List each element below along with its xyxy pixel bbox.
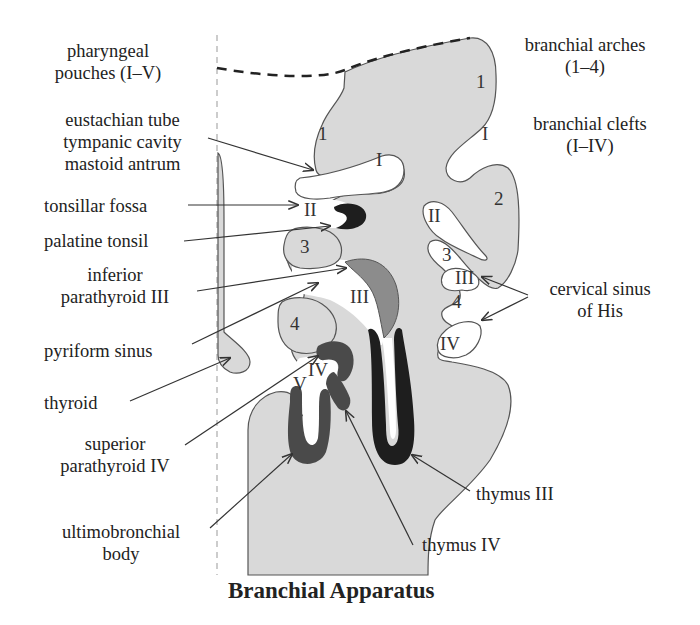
label-line: parathyroid III: [44, 286, 186, 308]
label-palatine-tonsil: palatine tonsil: [44, 230, 148, 252]
label-line: (1–4): [505, 56, 665, 78]
mark-arch-2: 2: [494, 188, 504, 209]
label-line: eustachian tube: [40, 109, 205, 131]
label-line: inferior: [44, 264, 186, 286]
arrow-eustachian: [208, 138, 313, 170]
label-branchial-clefts: branchial clefts (I–IV): [510, 113, 670, 157]
mark-arch-4-left: 4: [290, 313, 300, 334]
mark-arch-1-top: 1: [476, 71, 486, 92]
label-line: mastoid antrum: [40, 153, 205, 175]
mark-pouch-II: II: [304, 199, 317, 220]
label-line: pouches (I–V): [44, 62, 172, 84]
label-line: pharyngeal: [44, 40, 172, 62]
label-line: superior: [44, 433, 186, 455]
label-line: tympanic cavity: [40, 131, 205, 153]
label-pyriform-sinus: pyriform sinus: [44, 340, 152, 362]
label-line: parathyroid IV: [44, 455, 186, 477]
label-line: cervical sinus: [534, 278, 666, 300]
arch-3-left: [284, 227, 342, 268]
mark-cleft-IV: IV: [440, 333, 460, 354]
label-line: branchial clefts: [510, 113, 670, 135]
mark-cleft-II: II: [428, 205, 441, 226]
label-line: of His: [534, 300, 666, 322]
mark-arch-3-left: 3: [300, 236, 310, 257]
mark-arch-4-right: 4: [452, 291, 462, 312]
arrow-cervical-sinus-iv: [482, 297, 528, 320]
label-ultimobronchial: ultimobronchial body: [44, 521, 198, 565]
figure-title: Branchial Apparatus: [228, 578, 434, 604]
arrow-thyroid: [130, 358, 230, 401]
mark-arch-3-right: 3: [442, 244, 452, 265]
label-thymus-iv: thymus IV: [422, 534, 501, 556]
mark-cleft-I: I: [482, 123, 488, 144]
label-inferior-parathyroid: inferior parathyroid III: [44, 264, 186, 308]
label-thymus-iii: thymus III: [476, 483, 554, 505]
label-cervical-sinus: cervical sinus of His: [534, 278, 666, 322]
label-pharyngeal-pouches: pharyngeal pouches (I–V): [44, 40, 172, 84]
label-thyroid: thyroid: [44, 392, 97, 414]
thyroid-duct: [218, 153, 250, 373]
mark-pouch-V: V: [293, 373, 307, 394]
label-line: ultimobronchial: [44, 521, 198, 543]
label-branchial-arches: branchial arches (1–4): [505, 34, 665, 78]
mark-pouch-IV: IV: [308, 359, 328, 380]
mark-pouch-III: III: [350, 286, 369, 307]
mark-pouch-I: I: [376, 149, 382, 170]
mark-cleft-III: III: [455, 267, 474, 288]
label-superior-parathyroid: superior parathyroid IV: [44, 433, 186, 477]
label-line: branchial arches: [505, 34, 665, 56]
label-line: body: [44, 543, 198, 565]
label-tonsillar-fossa: tonsillar fossa: [44, 195, 147, 217]
label-line: (I–IV): [510, 135, 670, 157]
label-eustachian: eustachian tube tympanic cavity mastoid …: [40, 109, 205, 175]
mark-arch-1-left: 1: [318, 123, 328, 144]
